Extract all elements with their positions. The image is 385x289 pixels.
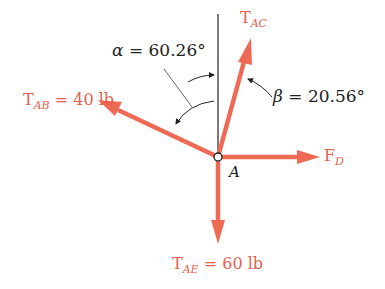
tac-main: T	[240, 8, 251, 27]
tab-main: T	[23, 90, 34, 109]
label-point-a: A	[229, 163, 240, 181]
alpha-arc-upper	[188, 75, 214, 82]
tab-value: = 40 lb	[50, 90, 114, 109]
tac-sub: AC	[251, 17, 267, 30]
beta-leader-arrow	[248, 79, 272, 97]
beta-value: = 20.56°	[283, 86, 365, 106]
fd-sub: D	[335, 155, 344, 168]
label-tac: TAC	[240, 8, 267, 27]
tae-value: = 60 lb	[199, 254, 263, 273]
tae-main: T	[172, 254, 183, 273]
alpha-arc-lower	[176, 101, 214, 124]
force-arrow-tae	[211, 157, 225, 244]
point-a-label: A	[229, 163, 240, 181]
force-arrow-tac	[218, 38, 252, 157]
alpha-leader-line	[164, 69, 192, 107]
label-tab: TAB = 40 lb	[23, 90, 114, 109]
label-tae: TAE = 60 lb	[172, 254, 263, 273]
label-fd: FD	[324, 146, 344, 165]
label-alpha: α = 60.26°	[112, 40, 206, 60]
tab-sub: AB	[34, 99, 50, 112]
point-a-marker	[214, 153, 222, 161]
force-arrow-tab	[98, 100, 218, 157]
label-beta: β = 20.56°	[273, 86, 365, 106]
fd-main: F	[324, 146, 335, 165]
beta-symbol: β	[273, 86, 283, 106]
tae-sub: AE	[183, 263, 199, 276]
force-arrow-fd	[218, 150, 320, 164]
alpha-value: = 60.26°	[123, 40, 205, 60]
alpha-symbol: α	[112, 40, 123, 60]
